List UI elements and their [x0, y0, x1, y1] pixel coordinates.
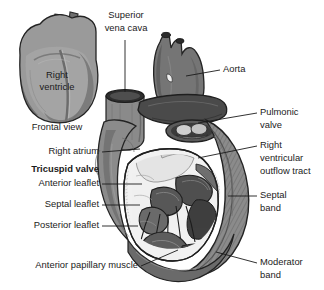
label-septal-band-line1: Septal: [260, 189, 287, 200]
label-right-atrium: Right atrium: [48, 145, 99, 156]
label-moderator-band-line2: band: [260, 269, 281, 280]
inset-organ-label-line1: Right: [46, 69, 68, 80]
label-superior-vena-cava-line1: Superior: [108, 9, 143, 20]
label-septal-band-line2: band: [260, 202, 281, 213]
label-anterior-papillary-muscle: Anterior papillary muscle: [35, 259, 138, 270]
label-pulmonic-valve-line1: Pulmonic: [260, 106, 299, 117]
label-aorta: Aorta: [223, 63, 246, 74]
heart-anatomy-diagram: Right ventricle Frontal view: [0, 0, 324, 290]
label-posterior-leaflet: Posterior leaflet: [34, 219, 100, 230]
label-rvot-line1: Right: [260, 139, 282, 150]
pulmonic-cusp-left: [176, 125, 192, 136]
inset-caption: Frontal view: [32, 121, 83, 132]
label-rvot-line3: outflow tract: [260, 165, 311, 176]
label-anterior-leaflet: Anterior leaflet: [39, 177, 100, 188]
label-moderator-band-line1: Moderator: [260, 256, 303, 267]
label-tricuspid-valve: Tricuspid valve: [31, 163, 99, 174]
label-pulmonic-valve-line2: valve: [260, 119, 282, 130]
label-rvot-line2: ventricular: [260, 152, 303, 163]
inset-organ-label-line2: ventricle: [40, 81, 75, 92]
pulmonic-cusp-right: [191, 124, 207, 135]
label-septal-leaflet: Septal leaflet: [45, 198, 100, 209]
label-superior-vena-cava-line2: vena cava: [105, 22, 149, 33]
